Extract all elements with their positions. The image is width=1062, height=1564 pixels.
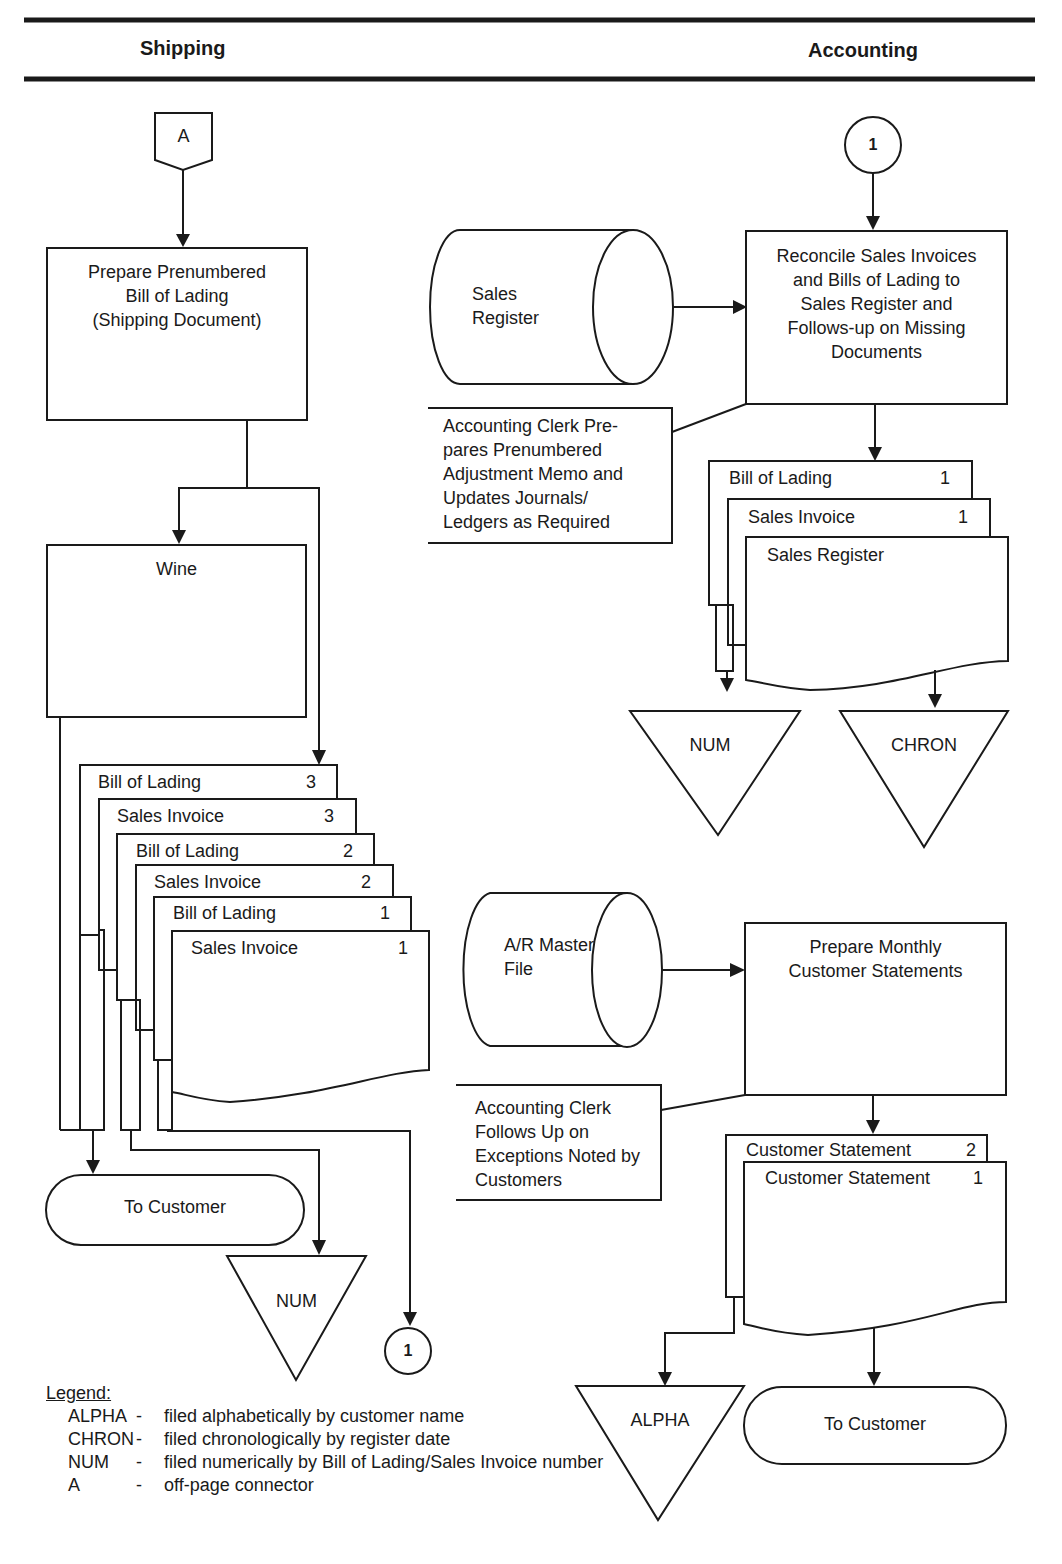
legend-dash: - bbox=[136, 1428, 164, 1451]
connector-1-in: 1 bbox=[845, 133, 901, 157]
legend-title: Legend: bbox=[46, 1382, 644, 1405]
doc-title: Bill of Lading bbox=[173, 901, 276, 925]
doc-copy: 1 bbox=[380, 901, 390, 925]
doc-copy: 1 bbox=[940, 466, 950, 490]
arrowhead-icon bbox=[730, 963, 745, 977]
legend: Legend: ALPHA - filed alphabetically by … bbox=[46, 1382, 644, 1497]
process-reconcile: Reconcile Sales Invoices and Bills of La… bbox=[746, 244, 1007, 364]
arrowhead-icon bbox=[176, 234, 190, 247]
file-num-shape bbox=[630, 711, 800, 835]
file-num: NUM bbox=[227, 1289, 366, 1313]
legend-code: ALPHA bbox=[46, 1405, 136, 1428]
cylinder-end bbox=[592, 893, 662, 1047]
process-line: Documents bbox=[746, 340, 1007, 364]
legend-desc: filed alphabetically by customer name bbox=[164, 1405, 644, 1428]
legend-dash: - bbox=[136, 1451, 164, 1474]
annotation-line: Adjustment Memo and bbox=[443, 462, 623, 486]
legend-code: NUM bbox=[46, 1451, 136, 1474]
process-prepare-bol: Prepare Prenumbered Bill of Lading (Ship… bbox=[47, 260, 307, 332]
wine-box-label: Wine bbox=[47, 557, 306, 581]
arrowhead-icon bbox=[312, 750, 326, 765]
process-line: Customer Statements bbox=[745, 959, 1006, 983]
annotation-connector bbox=[672, 404, 746, 432]
annotation-exceptions: Accounting Clerk Follows Up on Exception… bbox=[475, 1096, 640, 1192]
ar-master-storage: A/R Master File bbox=[504, 933, 594, 981]
process-statements: Prepare Monthly Customer Statements bbox=[745, 935, 1006, 983]
legend-item: NUM - filed numerically by Bill of Ladin… bbox=[46, 1451, 644, 1474]
doc-tail bbox=[158, 1060, 172, 1130]
flow-to-alpha bbox=[665, 1297, 734, 1372]
doc-copy: 2 bbox=[966, 1138, 976, 1162]
annotation-line: Ledgers as Required bbox=[443, 510, 623, 534]
arrowhead-icon bbox=[866, 1120, 880, 1134]
legend-item: CHRON - filed chronologically by registe… bbox=[46, 1428, 644, 1451]
swimlane-header-shipping: Shipping bbox=[140, 36, 226, 60]
storage-line: Sales bbox=[472, 282, 539, 306]
process-line: Reconcile Sales Invoices bbox=[746, 244, 1007, 268]
doc-copy: 1 bbox=[398, 936, 408, 960]
doc-title: Bill of Lading bbox=[729, 466, 832, 490]
swimlane-header-accounting: Accounting bbox=[808, 38, 918, 62]
annotation-line: Follows Up on bbox=[475, 1120, 640, 1144]
storage-line: File bbox=[504, 957, 594, 981]
file-chron-shape bbox=[840, 711, 1008, 847]
doc-title: Bill of Lading bbox=[98, 770, 201, 794]
arrowhead-icon bbox=[868, 447, 882, 461]
arrowhead-icon bbox=[658, 1372, 672, 1386]
annotation-line: Updates Journals/ bbox=[443, 486, 623, 510]
arrowhead-icon bbox=[733, 300, 747, 314]
doc-copy: 1 bbox=[973, 1166, 983, 1190]
terminal-to-customer: To Customer bbox=[46, 1195, 304, 1219]
file-chron: CHRON bbox=[840, 733, 1008, 757]
cylinder-end bbox=[593, 230, 673, 384]
arrowhead-icon bbox=[403, 1312, 417, 1326]
arrowhead-icon bbox=[867, 1372, 881, 1386]
doc-copy: 2 bbox=[361, 870, 371, 894]
legend-code: A bbox=[46, 1474, 136, 1497]
doc-title: Sales Invoice bbox=[154, 870, 261, 894]
annotation-line: Accounting Clerk bbox=[475, 1096, 640, 1120]
process-line: Prepare Monthly bbox=[745, 935, 1006, 959]
file-num-shape bbox=[227, 1256, 366, 1380]
process-line: Prepare Prenumbered bbox=[47, 260, 307, 284]
sales-register-storage: Sales Register bbox=[472, 282, 539, 330]
storage-line: Register bbox=[472, 306, 539, 330]
doc-copy: 2 bbox=[343, 839, 353, 863]
doc-title: Customer Statement bbox=[765, 1166, 930, 1190]
connector-1: 1 bbox=[385, 1339, 431, 1363]
legend-item: A - off-page connector bbox=[46, 1474, 644, 1497]
process-line: and Bills of Lading to bbox=[746, 268, 1007, 292]
process-line: Bill of Lading bbox=[47, 284, 307, 308]
legend-code: CHRON bbox=[46, 1428, 136, 1451]
annotation-adjustment: Accounting Clerk Pre- pares Prenumbered … bbox=[443, 414, 623, 534]
doc-copy: 1 bbox=[958, 505, 968, 529]
process-line: (Shipping Document) bbox=[47, 308, 307, 332]
doc-title: Sales Invoice bbox=[748, 505, 855, 529]
terminal-to-customer: To Customer bbox=[744, 1412, 1006, 1436]
process-line: Sales Register and bbox=[746, 292, 1007, 316]
arrowhead-icon bbox=[312, 1240, 326, 1255]
legend-desc: off-page connector bbox=[164, 1474, 644, 1497]
annotation-line: pares Prenumbered bbox=[443, 438, 623, 462]
process-line: Follows-up on Missing bbox=[746, 316, 1007, 340]
doc-title: Customer Statement bbox=[746, 1138, 911, 1162]
doc-title: Sales Invoice bbox=[117, 804, 224, 828]
legend-dash: - bbox=[136, 1405, 164, 1428]
arrowhead-icon bbox=[866, 216, 880, 230]
doc-tail bbox=[60, 935, 80, 1130]
annotation-line: Accounting Clerk Pre- bbox=[443, 414, 623, 438]
annotation-line: Exceptions Noted by bbox=[475, 1144, 640, 1168]
annotation-connector bbox=[661, 1095, 745, 1110]
legend-item: ALPHA - filed alphabetically by customer… bbox=[46, 1405, 644, 1428]
doc-copy: 3 bbox=[324, 804, 334, 828]
arrowhead-icon bbox=[928, 694, 942, 708]
arrowhead-icon bbox=[86, 1160, 100, 1174]
annotation-line: Customers bbox=[475, 1168, 640, 1192]
arrowhead-icon bbox=[172, 530, 186, 544]
offpage-connector-a: A bbox=[155, 124, 212, 148]
flow-prepare-to-wine bbox=[179, 420, 247, 530]
doc-title: Sales Invoice bbox=[191, 936, 298, 960]
legend-dash: - bbox=[136, 1474, 164, 1497]
doc-copy: 3 bbox=[306, 770, 316, 794]
storage-line: A/R Master bbox=[504, 933, 594, 957]
